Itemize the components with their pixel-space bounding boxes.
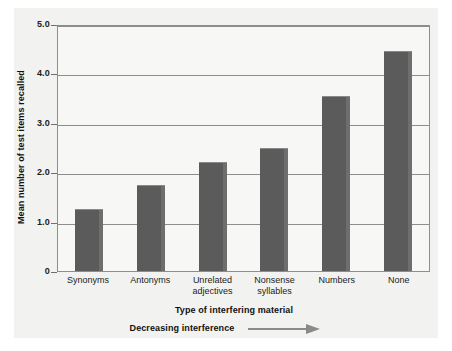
plot-area	[57, 25, 430, 272]
y-axis-tick	[51, 74, 57, 75]
x-axis-category-label: Numbers	[306, 275, 368, 297]
bar-slot	[367, 26, 429, 271]
bar[interactable]	[322, 96, 350, 271]
bar-slot	[58, 26, 120, 271]
x-axis-label-line: adjectives	[181, 286, 243, 297]
interference-annotation-label: Decreasing interference	[130, 323, 235, 333]
bar[interactable]	[199, 162, 227, 271]
arrow-shaft	[248, 328, 308, 330]
x-axis-category-label: None	[368, 275, 430, 297]
x-axis-label-line: Unrelated	[181, 275, 243, 286]
x-axis-label-line: Antonyms	[119, 275, 181, 286]
x-axis-category-label: Nonsensesyllables	[243, 275, 305, 297]
arrow-head	[306, 324, 320, 334]
y-axis-tick-label: 1.0	[2, 217, 50, 227]
bar-chart-figure: Mean number of test items recalled 01.02…	[0, 0, 452, 351]
y-axis-tick-label: 5.0	[2, 19, 50, 29]
x-axis-label-line: Numbers	[306, 275, 368, 286]
y-axis-tick-label: 3.0	[2, 118, 50, 128]
x-axis-label-line: None	[368, 275, 430, 286]
y-axis-tick-label: 2.0	[2, 167, 50, 177]
y-axis-tick-labels: 01.02.03.04.05.0	[0, 0, 50, 351]
x-axis-label-line: Nonsense	[243, 275, 305, 286]
x-axis-category-label: Synonyms	[57, 275, 119, 297]
y-axis-tick	[51, 124, 57, 125]
x-axis-category-label: Unrelatedadjectives	[181, 275, 243, 297]
bar[interactable]	[260, 148, 288, 272]
x-axis-label-line: Synonyms	[57, 275, 119, 286]
right-arrow-icon	[248, 324, 322, 333]
y-axis-tick	[51, 173, 57, 174]
y-axis-tick-label: 0	[2, 266, 50, 276]
y-axis-tick	[51, 25, 57, 26]
bar-slot	[182, 26, 244, 271]
y-axis-tick	[51, 272, 57, 273]
bar-slot	[244, 26, 306, 271]
bar[interactable]	[384, 51, 412, 271]
y-axis-tick-label: 4.0	[2, 68, 50, 78]
x-axis-category-labels: SynonymsAntonymsUnrelatedadjectivesNonse…	[57, 275, 430, 297]
bar[interactable]	[137, 185, 165, 271]
bar[interactable]	[75, 209, 103, 271]
x-axis-label-line: syllables	[243, 286, 305, 297]
bar-slot	[120, 26, 182, 271]
bar-series	[58, 26, 429, 271]
bar-slot	[305, 26, 367, 271]
x-axis-title: Type of interfering material	[8, 305, 452, 315]
y-axis-tick	[51, 223, 57, 224]
interference-annotation: Decreasing interference	[0, 323, 452, 333]
x-axis-category-label: Antonyms	[119, 275, 181, 297]
